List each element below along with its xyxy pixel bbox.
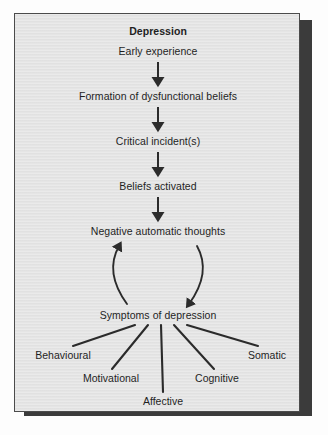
node-formation-of-dysfunctional-beliefs: Formation of dysfunctional beliefs	[79, 91, 237, 103]
branch-label-cognitive: Cognitive	[195, 373, 239, 385]
node-negative-automatic-thoughts: Negative automatic thoughts	[91, 226, 225, 238]
arrow-symptoms-to-thoughts	[113, 246, 127, 304]
branch-label-affective: Affective	[143, 396, 183, 408]
branch-line-affective	[161, 325, 163, 392]
diagram-panel: Depression Early experience Formation of…	[14, 13, 300, 412]
node-early-experience: Early experience	[118, 46, 197, 58]
branch-label-behavioural: Behavioural	[35, 350, 90, 362]
diagram-title: Depression	[129, 26, 187, 38]
figure-root: Depression Early experience Formation of…	[0, 0, 328, 435]
branch-label-somatic: Somatic	[248, 350, 286, 362]
branch-line-behavioural	[73, 325, 135, 346]
node-critical-incidents: Critical incident(s)	[116, 136, 200, 148]
arrow-thoughts-to-symptoms	[189, 246, 203, 304]
node-symptoms-of-depression: Symptoms of depression	[100, 310, 217, 322]
node-beliefs-activated: Beliefs activated	[119, 181, 196, 193]
branch-line-somatic	[187, 325, 258, 346]
branch-label-motivational: Motivational	[83, 373, 139, 385]
